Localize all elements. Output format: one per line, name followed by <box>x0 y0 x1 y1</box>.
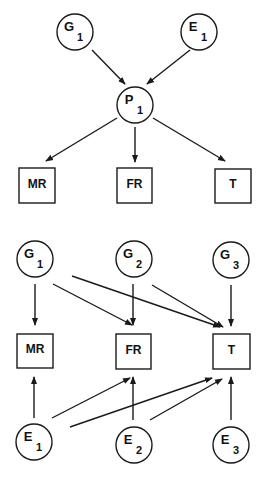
node-letter: E <box>189 19 198 34</box>
node-circle <box>116 427 152 463</box>
node-p1: P1 <box>117 87 153 123</box>
arrow-p1-to-t <box>153 118 225 161</box>
node-circle <box>17 241 53 277</box>
node-e2: E2 <box>116 427 152 463</box>
arrow-e1-to-p1 <box>147 50 190 84</box>
node-letter: G <box>123 246 133 261</box>
node-label: MR <box>26 342 45 356</box>
node-e1: E1 <box>16 424 52 460</box>
node-mr: MR <box>17 334 53 368</box>
node-t: T <box>213 334 250 369</box>
arrow-e2-to-t <box>150 379 222 420</box>
node-circle <box>116 241 152 277</box>
node-subscript: 3 <box>233 259 239 271</box>
node-e1: E1 <box>181 14 217 50</box>
node-label: MR <box>28 177 47 191</box>
node-e3: E3 <box>213 427 249 463</box>
node-mr: MR <box>19 168 55 203</box>
node-label: T <box>229 177 237 191</box>
node-letter: G <box>220 247 230 262</box>
node-label: FR <box>127 177 143 191</box>
node-fr: FR <box>117 168 152 203</box>
node-letter: E <box>24 429 33 444</box>
node-fr: FR <box>116 334 151 369</box>
node-circle <box>117 87 153 123</box>
node-subscript: 1 <box>77 31 83 43</box>
node-circle <box>16 424 52 460</box>
top-diagram-nodes: G1E1P1MRFRT <box>19 14 251 203</box>
node-circle <box>213 427 249 463</box>
node-letter: E <box>124 432 133 447</box>
node-g2: G2 <box>116 241 152 277</box>
node-circle <box>181 14 217 50</box>
node-label: T <box>228 343 236 357</box>
arrow-g1-to-fr <box>53 284 132 325</box>
node-letter: G <box>64 19 74 34</box>
node-g1: G1 <box>17 241 53 277</box>
node-g3: G3 <box>213 242 249 278</box>
arrow-e1-to-t <box>70 378 212 427</box>
arrow-g1-to-p1 <box>92 50 125 84</box>
node-subscript: 2 <box>136 444 142 456</box>
node-subscript: 2 <box>136 258 142 270</box>
node-subscript: 1 <box>137 104 143 116</box>
node-letter: E <box>221 432 230 447</box>
arrow-e1-to-fr <box>52 378 130 418</box>
node-letter: P <box>125 92 134 107</box>
path-diagram-canvas: G1E1P1MRFRTG1G2G3MRFRTE1E2E3 <box>0 0 270 480</box>
node-letter: G <box>24 246 34 261</box>
node-label: FR <box>126 343 142 357</box>
arrow-g2-to-t <box>152 285 223 327</box>
node-g1: G1 <box>57 14 93 50</box>
node-circle <box>57 14 93 50</box>
node-subscript: 1 <box>201 31 207 43</box>
node-subscript: 3 <box>233 444 239 456</box>
node-t: T <box>215 169 251 203</box>
node-circle <box>213 242 249 278</box>
arrow-p1-to-mr <box>46 118 117 161</box>
node-subscript: 1 <box>37 258 43 270</box>
bottom-diagram-nodes: G1G2G3MRFRTE1E2E3 <box>16 241 250 463</box>
arrow-g1-to-t <box>72 276 220 327</box>
node-subscript: 1 <box>36 441 42 453</box>
